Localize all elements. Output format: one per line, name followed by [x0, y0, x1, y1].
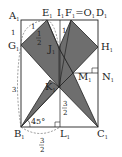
label-N: N1 — [102, 71, 114, 83]
geometry-figure: A1 E1 I1 F1=O1 D1 G1 H1 J1 M1 N1 K1 B1 L… — [0, 0, 122, 157]
label-L: L1 — [60, 128, 70, 140]
measure-EJ-den: 2 — [37, 39, 41, 47]
label-F-O: F1=O1 — [65, 7, 95, 19]
label-G: G1 — [8, 40, 19, 52]
measure-BL-num: 3 — [40, 137, 44, 145]
measure-BL-den: 2 — [40, 146, 44, 154]
angle-arc — [27, 120, 30, 127]
measure-IJ: 1 — [62, 27, 66, 35]
label-C: C1 — [97, 128, 108, 140]
measure-AE: 1 — [31, 23, 35, 31]
measure-AG: 1 — [11, 29, 15, 37]
angle-B-label: 45° — [31, 117, 45, 126]
label-I: I1 — [57, 7, 64, 19]
label-H: H1 — [101, 41, 113, 53]
label-B: B1 — [14, 128, 25, 140]
measure-KL-num: 3 — [63, 100, 67, 108]
label-A: A1 — [8, 10, 19, 22]
label-D: D1 — [96, 7, 107, 19]
label-E: E1 — [42, 7, 53, 19]
measure-KL-den: 2 — [63, 109, 67, 117]
measure-EJ-num: 1 — [37, 30, 41, 38]
measure-GB: 3 — [12, 86, 16, 94]
